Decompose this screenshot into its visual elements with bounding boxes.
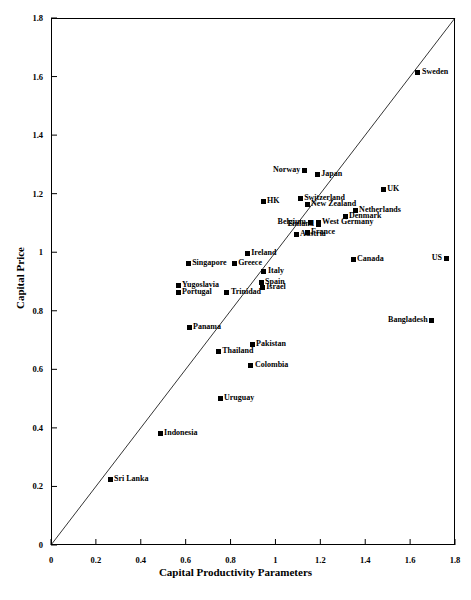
plot-frame: [51, 18, 455, 545]
data-point-marker: [187, 325, 192, 330]
data-point-label: West Germany: [322, 218, 373, 226]
data-point-label: Sweden: [422, 68, 448, 76]
data-point-label: Portugal: [182, 288, 212, 296]
data-point-label: HK: [267, 197, 279, 205]
data-point-label: Sri Lanka: [114, 475, 148, 483]
y-axis-title: Capital Price: [14, 218, 26, 338]
x-tick-label: 1.8: [435, 555, 471, 565]
data-point-label: US: [432, 254, 442, 262]
y-tick-label: 1.6: [3, 72, 43, 82]
data-point-label: Indonesia: [164, 429, 197, 437]
data-point-label: New Zealand: [311, 200, 356, 208]
x-tick-label: 1.6: [390, 555, 430, 565]
data-point-marker: [351, 257, 356, 262]
x-tick-label: 0.2: [76, 555, 116, 565]
data-point-label: Finland: [287, 220, 314, 228]
x-tick-label: 0.4: [121, 555, 161, 565]
y-tick-label: 1.2: [3, 189, 43, 199]
data-point-marker: [176, 290, 181, 295]
data-point-marker: [248, 363, 253, 368]
x-tick-label: 0: [31, 555, 71, 565]
data-point-label: UK: [387, 185, 399, 193]
y-tick-label: 0.2: [3, 481, 43, 491]
data-point-marker: [261, 269, 266, 274]
data-point-marker: [186, 261, 191, 266]
y-tick-label: 1.8: [3, 13, 43, 23]
data-point-marker: [218, 396, 223, 401]
data-point-marker: [294, 232, 299, 237]
y-tick-label: 0.4: [3, 423, 43, 433]
data-point-label: Uruguay: [224, 394, 254, 402]
data-point-label: Trinidad: [231, 288, 261, 296]
data-point-label: Canada: [357, 255, 384, 263]
data-point-label: Thailand: [222, 347, 253, 355]
data-point-marker: [415, 70, 420, 75]
data-point-label: Pakistan: [256, 340, 286, 348]
data-point-marker: [261, 199, 266, 204]
data-point-label: Singapore: [192, 259, 227, 267]
data-point-marker: [232, 261, 237, 266]
data-point-label: Panama: [193, 323, 221, 331]
x-tick-label: 1.4: [345, 555, 385, 565]
x-tick-label: 0.6: [166, 555, 206, 565]
data-point-label: Colombia: [255, 361, 288, 369]
data-point-marker: [245, 251, 250, 256]
data-point-marker: [444, 256, 449, 261]
x-tick-label: 1: [255, 555, 295, 565]
data-point-label: Bangladesh: [388, 316, 428, 324]
data-point-label: Austria: [300, 230, 326, 238]
data-point-marker: [315, 172, 320, 177]
data-point-label: Greece: [238, 259, 262, 267]
x-tick-label: 0.8: [211, 555, 251, 565]
x-axis-title: Capital Productivity Parameters: [0, 566, 471, 578]
y-tick-label: 0.6: [3, 364, 43, 374]
data-point-marker: [108, 477, 113, 482]
y-tick-label: 1.4: [3, 130, 43, 140]
data-point-label: Japan: [321, 170, 342, 178]
data-point-marker: [381, 187, 386, 192]
data-point-marker: [429, 318, 434, 323]
data-point-marker: [302, 168, 307, 173]
data-point-label: Israel: [266, 283, 286, 291]
x-tick-label: 1.2: [300, 555, 340, 565]
data-point-label: Italy: [268, 267, 284, 275]
data-point-marker: [176, 283, 181, 288]
y-tick-label: 0: [3, 540, 43, 550]
scatter-chart-figure: 00.20.40.60.811.21.41.61.800.20.40.60.81…: [0, 0, 471, 600]
data-point-marker: [158, 431, 163, 436]
data-point-label: Norway: [273, 166, 300, 174]
data-point-marker: [216, 349, 221, 354]
data-point-marker: [298, 196, 303, 201]
data-point-label: Ireland: [251, 249, 276, 257]
data-point-marker: [224, 290, 229, 295]
data-point-marker: [305, 202, 310, 207]
